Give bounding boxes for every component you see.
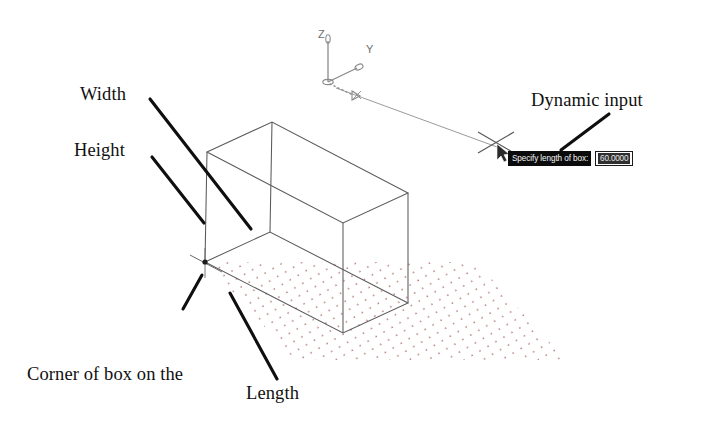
leader-corner-note bbox=[183, 275, 202, 309]
ucs-axis-label-z: Z bbox=[318, 28, 325, 40]
ucs-y-arrowhead bbox=[354, 63, 364, 71]
dynamic-input-value-field[interactable]: 60.0000 bbox=[595, 151, 633, 166]
label-corner-note: Corner of box on the WCS origin, 0,0,0 (… bbox=[27, 312, 183, 437]
box-top-face bbox=[207, 122, 408, 223]
dynamic-input-tooltip: Specify length of box: 60.0000 bbox=[508, 151, 633, 166]
label-height: Height bbox=[74, 139, 125, 163]
figure-canvas: Width Height Length Dynamic input Corner… bbox=[0, 0, 714, 437]
corner-note-line-1: Corner of box on the bbox=[27, 362, 183, 387]
leader-dynamic-input bbox=[561, 114, 609, 150]
leader-height bbox=[152, 157, 204, 223]
dynamic-input-prompt: Specify length of box: bbox=[508, 151, 591, 166]
dynamic-input-value[interactable]: 60.0000 bbox=[598, 153, 630, 164]
label-length: Length bbox=[246, 382, 299, 406]
label-width: Width bbox=[80, 83, 126, 107]
ucs-axis-label-y: Y bbox=[366, 43, 373, 55]
label-dynamic-input: Dynamic input bbox=[531, 89, 643, 113]
rubber-band-line bbox=[336, 88, 497, 147]
